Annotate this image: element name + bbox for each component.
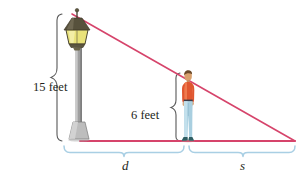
standing-person-icon — [181, 70, 195, 142]
brace-distance-d — [64, 146, 184, 157]
brace-distance-s — [189, 146, 295, 157]
label-distance-d: d — [122, 158, 129, 174]
figure-canvas: 15 feet 6 feet d s — [0, 0, 308, 180]
label-person-height: 6 feet — [131, 108, 159, 123]
label-distance-s: s — [240, 158, 245, 174]
label-lamp-height: 15 feet — [33, 80, 67, 95]
brace-lamp-height — [51, 14, 62, 141]
light-ray-line — [72, 14, 295, 141]
brace-person-height — [171, 73, 180, 141]
street-lamp-icon — [64, 8, 90, 141]
